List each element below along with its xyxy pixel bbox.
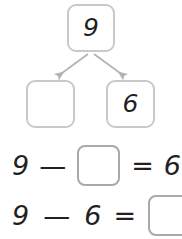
number-bond-diagram: 9 6	[0, 0, 182, 132]
equation-one-row: 9 — = 6	[0, 141, 182, 189]
equation-two-answer-blank[interactable]	[148, 195, 182, 236]
arrow-to-right-part	[94, 54, 124, 76]
equation-two-minuend: 9	[12, 202, 29, 229]
number-bond-whole-box[interactable]: 9	[67, 4, 115, 52]
equation-one-minus-sign: —	[39, 152, 66, 179]
equation-one-difference: 6	[164, 152, 181, 179]
worksheet-page: 9 6 9 — = 6 9 — 6 =	[0, 0, 182, 239]
equation-two-row: 9 — 6 =	[0, 191, 182, 239]
equation-two-subtrahend: 6	[84, 202, 101, 229]
number-bond-part-right-box[interactable]: 6	[106, 80, 155, 128]
number-bond-whole-value: 9	[83, 15, 99, 40]
equation-one-minuend: 9	[12, 152, 29, 179]
arrow-to-left-part	[58, 54, 88, 76]
equation-two-minus-sign: —	[43, 202, 70, 229]
number-bond-part-right-value: 6	[123, 91, 139, 116]
equation-one-equals-sign: =	[131, 152, 154, 179]
equation-one-answer-blank[interactable]	[77, 145, 120, 186]
equation-two-equals-sign: =	[113, 202, 136, 229]
number-bond-part-left-box[interactable]	[26, 80, 75, 128]
